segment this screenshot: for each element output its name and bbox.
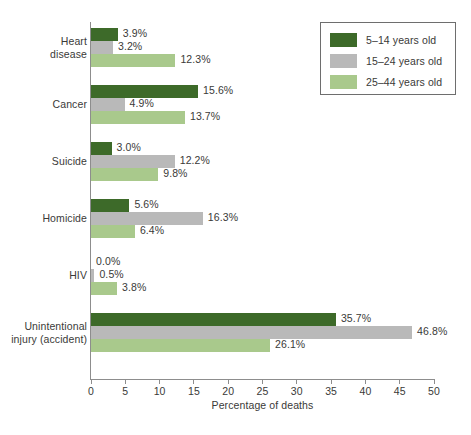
x-axis-tick <box>365 379 366 384</box>
bar-group: 0.0%0.5%3.8% <box>91 256 434 295</box>
bar-value-label: 0.0% <box>96 255 120 267</box>
bar-value-label: 3.2% <box>118 40 142 52</box>
bar-value-label: 3.0% <box>117 141 141 153</box>
bar-row: 0.0% <box>91 256 434 269</box>
x-axis-tick <box>399 379 400 384</box>
x-axis-tick <box>296 379 297 384</box>
x-axis-tick <box>331 379 332 384</box>
bar <box>91 326 412 339</box>
category-label-line: Homicide <box>0 212 87 225</box>
bar <box>91 41 113 54</box>
x-axis-tick-label: 20 <box>222 385 234 397</box>
bar-row: 5.6% <box>91 199 434 212</box>
bar-row: 6.4% <box>91 225 434 238</box>
bar <box>91 98 125 111</box>
bar-row: 3.0% <box>91 142 434 155</box>
bar-value-label: 5.6% <box>134 198 158 210</box>
category-label: HIV <box>0 269 87 282</box>
category-label: Unintentionalinjury (accident) <box>0 320 87 345</box>
x-axis-tick-label: 15 <box>188 385 200 397</box>
x-axis-tick-label: 30 <box>291 385 303 397</box>
x-axis-tick-label: 40 <box>359 385 371 397</box>
bar-row: 26.1% <box>91 339 434 352</box>
bar-value-label: 15.6% <box>203 84 233 96</box>
bar-value-label: 16.3% <box>208 211 238 223</box>
category-label: Homicide <box>0 212 87 225</box>
bar <box>91 142 112 155</box>
bar <box>91 168 158 181</box>
x-axis-tick <box>159 379 160 384</box>
x-axis-tick-label: 45 <box>394 385 406 397</box>
x-axis-tick-label: 0 <box>88 385 94 397</box>
bar-row: 3.2% <box>91 41 434 54</box>
bar-value-label: 4.9% <box>130 97 154 109</box>
bar-value-label: 46.8% <box>417 325 447 337</box>
bar <box>91 199 129 212</box>
bar-value-label: 3.8% <box>122 281 146 293</box>
category-label-line: injury (accident) <box>0 333 87 346</box>
x-axis-title: Percentage of deaths <box>91 399 434 411</box>
bar-value-label: 35.7% <box>341 312 371 324</box>
x-axis-tick-label: 25 <box>257 385 269 397</box>
bar-group: 3.9%3.2%12.3% <box>91 28 434 67</box>
x-axis-tick-label: 5 <box>122 385 128 397</box>
bar-value-label: 12.3% <box>180 53 210 65</box>
bar-row: 13.7% <box>91 111 434 124</box>
bar <box>91 111 185 124</box>
x-axis-tick <box>434 379 435 384</box>
category-label: Suicide <box>0 155 87 168</box>
bar-value-label: 9.8% <box>163 167 187 179</box>
category-label-line: Unintentional <box>0 320 87 333</box>
bar <box>91 313 336 326</box>
x-axis-tick <box>193 379 194 384</box>
bar <box>91 28 118 41</box>
bar-row: 35.7% <box>91 313 434 326</box>
category-label: Heartdisease <box>0 35 87 60</box>
category-axis-labels: HeartdiseaseCancerSuicideHomicideHIVUnin… <box>0 22 87 379</box>
bar-row: 3.9% <box>91 28 434 41</box>
bar <box>91 339 270 352</box>
x-axis-tick <box>91 379 92 384</box>
bar-group: 35.7%46.8%26.1% <box>91 313 434 352</box>
x-axis-tick <box>125 379 126 384</box>
bar-group: 15.6%4.9%13.7% <box>91 85 434 124</box>
bar-group: 5.6%16.3%6.4% <box>91 199 434 238</box>
category-label-line: disease <box>0 48 87 61</box>
category-label-line: Heart <box>0 35 87 48</box>
x-axis-tick <box>262 379 263 384</box>
bar <box>91 155 175 168</box>
bar-group: 3.0%12.2%9.8% <box>91 142 434 181</box>
bar-row: 4.9% <box>91 98 434 111</box>
plot-area: 3.9%3.2%12.3%15.6%4.9%13.7%3.0%12.2%9.8%… <box>91 22 434 379</box>
category-label-line: Suicide <box>0 155 87 168</box>
bar-value-label: 13.7% <box>190 110 220 122</box>
bar-row: 9.8% <box>91 168 434 181</box>
bar-value-label: 0.5% <box>99 268 123 280</box>
bar-row: 12.2% <box>91 155 434 168</box>
bar-chart: 5–14 years old 15–24 years old 25–44 yea… <box>0 0 471 435</box>
bar-row: 3.8% <box>91 282 434 295</box>
bar-row: 12.3% <box>91 54 434 67</box>
category-label: Cancer <box>0 98 87 111</box>
bar <box>91 225 135 238</box>
bar-row: 46.8% <box>91 326 434 339</box>
category-label-line: Cancer <box>0 98 87 111</box>
x-axis-tick-label: 50 <box>428 385 440 397</box>
bar <box>91 54 175 67</box>
x-axis-tick-label: 10 <box>154 385 166 397</box>
x-axis-tick-label: 35 <box>325 385 337 397</box>
x-axis-tick <box>228 379 229 384</box>
category-label-line: HIV <box>0 269 87 282</box>
bar-value-label: 3.9% <box>123 27 147 39</box>
bar <box>91 282 117 295</box>
bar-value-label: 26.1% <box>275 338 305 350</box>
bar-value-label: 12.2% <box>180 154 210 166</box>
bar <box>91 269 94 282</box>
bar-value-label: 6.4% <box>140 224 164 236</box>
